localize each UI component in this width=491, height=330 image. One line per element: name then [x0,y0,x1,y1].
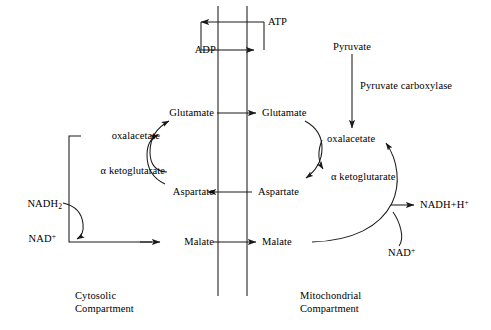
cytosolic-line-2: Compartment [75,302,134,315]
nad-uptake-arc [393,212,402,246]
node-label-adp: ADP [195,44,216,56]
nadh2-to-nad-arc [63,203,83,239]
node-label-mit-oxalacetate: oxalacetate [327,133,375,145]
node-label-mit-nadhh: NADH+H+ [420,199,469,211]
malate-to-oxalacetate-arc [312,143,397,242]
node-label-mit-nad: NAD+ [388,247,415,259]
node-label-mit-aspartate: Aspartate [258,186,299,198]
node-label-cyt-nadh2: NADH2 [27,198,62,211]
mitochondrial-line-1: Mitochondrial [300,289,361,302]
node-label-mit-glutamate: Glutamate [262,107,307,119]
mitochondrial-malate-dehydrogenase [312,143,414,246]
mitochondrial-line-2: Compartment [300,302,361,315]
node-label-cyt-malate: Malate [184,236,214,248]
node-label-cyt-nad: NAD+ [29,233,56,245]
cytosolic-bracket-path [69,136,152,242]
node-label-atp: ATP [268,16,287,28]
mit-nad-superscript: + [411,246,415,255]
diagram-canvas [0,0,491,330]
compartment-label-mitochondrial: Mitochondrial Compartment [300,289,361,316]
malate-aspartate-shuttle-diagram: ADP ATP Glutamate oxalacetate α ketoglut… [0,0,491,330]
node-label-cyt-oxalacetate: oxalacetate [112,130,160,142]
node-label-cyt-glutamate: Glutamate [169,107,214,119]
node-label-cyt-aspartate: Aspartate [173,186,214,198]
nadhh-superscript: + [464,198,468,207]
cytosolic-line-1: Cytosolic [75,289,134,302]
node-label-mit-ketoglutarate: α ketoglutarate [331,171,395,183]
node-label-pyruvate: Pyruvate [333,41,371,53]
node-label-cyt-ketoglutarate: α ketoglutarate [101,165,165,177]
compartment-label-cytosolic: Cytosolic Compartment [75,289,134,316]
cytosolic-shuttle-bracket [69,136,160,242]
node-label-mit-malate: Malate [262,236,292,248]
enzyme-label-pyruvate-carboxylase: Pyruvate carboxylase [360,80,452,92]
nad-superscript: + [52,232,56,241]
mitochondrial-transaminase [305,121,323,178]
nadh2-subscript: 2 [58,202,62,211]
cytosolic-malate-dehydrogenase [63,203,83,239]
